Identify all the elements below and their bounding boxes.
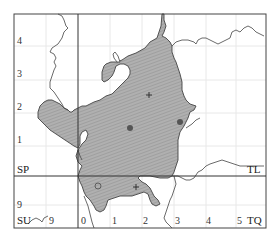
distribution-map: 4 3 2 1 9 9 0 1 2 3 4 5 SP TL SU TQ (0, 0, 279, 238)
x-label-2: 2 (143, 216, 148, 226)
y-label-3: 3 (17, 69, 22, 79)
grid-square-tl: TL (247, 164, 260, 175)
x-label-5: 5 (237, 216, 242, 226)
x-label-1: 1 (112, 216, 117, 226)
y-label-9: 9 (17, 200, 22, 210)
record-dot-east (177, 119, 183, 125)
x-label-4: 4 (206, 216, 211, 226)
x-label-9: 9 (49, 216, 54, 226)
record-dot-west (127, 125, 133, 131)
x-label-3: 3 (175, 216, 180, 226)
y-label-4: 4 (17, 36, 22, 46)
grid-square-su: SU (17, 215, 31, 226)
grid-square-tq: TQ (247, 215, 262, 226)
map-canvas (0, 0, 279, 238)
y-label-2: 2 (17, 102, 22, 112)
y-label-1: 1 (17, 135, 22, 145)
shaded-region (38, 14, 196, 212)
grid-square-sp: SP (17, 164, 29, 175)
x-label-0: 0 (81, 216, 86, 226)
